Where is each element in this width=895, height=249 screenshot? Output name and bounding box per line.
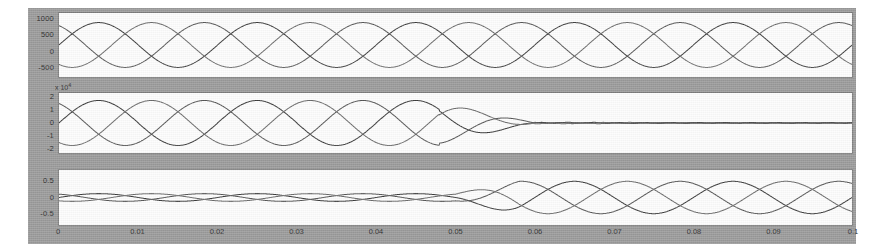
x-axis-tick-labels: 00.010.020.030.040.050.060.070.080.090.1 bbox=[28, 227, 856, 239]
subplot2-axes bbox=[58, 92, 853, 154]
subplot1-curves bbox=[59, 13, 852, 77]
subplot3-ytick: 0 bbox=[50, 194, 54, 202]
subplot1-ytick: 1000 bbox=[37, 15, 55, 23]
x-axis-tick: 0.07 bbox=[607, 227, 622, 236]
subplot2-curves bbox=[59, 93, 852, 153]
subplot3-curves bbox=[59, 170, 852, 225]
subplot3-axes bbox=[58, 169, 853, 226]
x-axis-tick: 0.04 bbox=[369, 227, 384, 236]
x-axis-tick: 0 bbox=[56, 227, 60, 236]
subplot2-y-tick-labels: 210-1-2 bbox=[28, 92, 54, 154]
subplot1-axes bbox=[58, 12, 853, 78]
x-axis-tick: 0.02 bbox=[210, 227, 225, 236]
subplot1-y-tick-labels: 10005000-500 bbox=[28, 12, 54, 78]
x-axis-tick: 0.1 bbox=[848, 227, 858, 236]
x-axis-tick: 0.05 bbox=[448, 227, 463, 236]
subplot3-phase-a-curve bbox=[59, 181, 852, 213]
subplot3-ytick: 0.5 bbox=[43, 177, 54, 185]
x-axis-tick: 0.01 bbox=[130, 227, 145, 236]
screenshot-root: 10005000-500 x 104 210-1-2 0.50-0.5 00.0… bbox=[0, 0, 895, 249]
x-axis-tick: 0.09 bbox=[766, 227, 781, 236]
subplot2-exponent-power: 4 bbox=[68, 82, 71, 88]
subplot1-phase-a-curve bbox=[59, 23, 852, 68]
subplot1-ytick: 0 bbox=[50, 48, 54, 56]
x-axis-tick: 0.06 bbox=[528, 227, 543, 236]
subplot2-ytick: 2 bbox=[50, 93, 54, 101]
subplot2-exponent-label: x 104 bbox=[55, 82, 71, 91]
subplot2-ytick: 0 bbox=[50, 119, 54, 127]
x-axis-tick: 0.03 bbox=[289, 227, 304, 236]
subplot3-ytick: -0.5 bbox=[40, 210, 54, 218]
x-axis-tick: 0.08 bbox=[687, 227, 702, 236]
subplot2-ytick: -1 bbox=[47, 132, 54, 140]
subplot1-ytick: -500 bbox=[38, 64, 54, 72]
subplot1-ytick: 500 bbox=[41, 31, 54, 39]
subplot3-y-tick-labels: 0.50-0.5 bbox=[28, 169, 54, 226]
subplot2-ytick: 1 bbox=[50, 106, 54, 114]
subplot2-exponent-base: x 10 bbox=[55, 84, 68, 91]
matlab-figure-canvas: 10005000-500 x 104 210-1-2 0.50-0.5 00.0… bbox=[28, 8, 856, 244]
subplot2-ytick: -2 bbox=[47, 145, 54, 153]
